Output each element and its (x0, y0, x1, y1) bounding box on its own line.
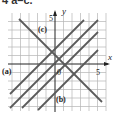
origin-label: 0 (57, 68, 61, 77)
x-axis-arrow-icon (104, 62, 110, 66)
coordinate-graph: y x 5 5 0 (c) (a) (b) (0, 0, 115, 117)
label-b: (b) (56, 95, 66, 104)
x-tick-5: 5 (96, 68, 100, 77)
label-a: (a) (2, 67, 12, 76)
y-axis-label: y (61, 6, 66, 16)
x-axis-label: x (107, 52, 112, 62)
label-c: (c) (38, 25, 47, 34)
y-axis-arrow-icon (53, 10, 57, 16)
y-tick-5: 5 (49, 14, 53, 23)
